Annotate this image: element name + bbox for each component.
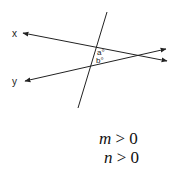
relation-m: > 0 [111, 129, 138, 148]
condition-n: n > 0 [104, 148, 139, 168]
label-x: x [12, 28, 17, 39]
condition-m: m > 0 [99, 129, 138, 149]
diagram: x y a° b° [0, 0, 175, 173]
angle-b-label: b° [96, 56, 104, 65]
variable-m: m [99, 129, 111, 148]
line-x [23, 33, 167, 61]
label-y: y [12, 76, 17, 87]
variable-n: n [104, 148, 113, 167]
line-y [25, 49, 166, 81]
relation-n: > 0 [113, 148, 140, 167]
